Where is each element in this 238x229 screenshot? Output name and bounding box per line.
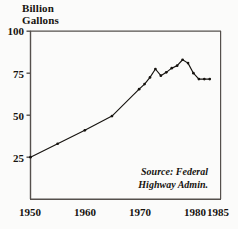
data-point-1955 bbox=[56, 142, 59, 145]
chart-container: Billion Gallons 100 75 50 25 1950 1960 1… bbox=[0, 0, 238, 229]
plot-area bbox=[0, 0, 238, 229]
data-point-1970 bbox=[138, 88, 141, 91]
data-point-1982 bbox=[203, 78, 206, 81]
data-point-1978 bbox=[181, 58, 184, 61]
data-point-1976 bbox=[170, 67, 173, 70]
data-point-1965 bbox=[111, 115, 114, 118]
axis-lines bbox=[30, 31, 221, 199]
data-point-1979 bbox=[187, 62, 190, 65]
data-point-1960 bbox=[83, 129, 86, 132]
data-point-1974 bbox=[160, 74, 163, 77]
data-point-1977 bbox=[176, 64, 179, 67]
data-point-1972 bbox=[149, 76, 152, 79]
data-point-1980 bbox=[192, 72, 195, 75]
data-point-1975 bbox=[165, 71, 168, 74]
data-point-1983 bbox=[208, 78, 211, 81]
data-point-1971 bbox=[143, 83, 146, 86]
data-point-1981 bbox=[198, 78, 201, 81]
data-point-1950 bbox=[29, 156, 32, 159]
data-point-1973 bbox=[154, 68, 157, 71]
